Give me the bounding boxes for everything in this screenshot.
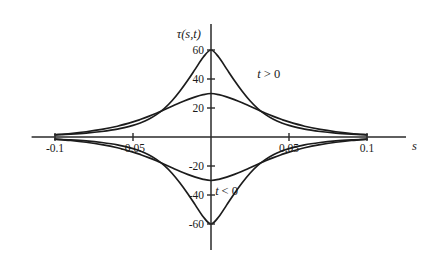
y-tick-label-20: 20 xyxy=(193,102,205,114)
x-tick-label-0.1: 0.1 xyxy=(360,142,375,154)
figure-container: 604020-20-40-60-0.1-0.050.050.1 t> 0t< 0… xyxy=(0,0,423,272)
y-tick-label-40: 40 xyxy=(193,73,205,85)
x-tick-label-0.05: 0.05 xyxy=(279,142,299,154)
x-tick-label--0.05: -0.05 xyxy=(121,142,145,154)
t-positive-label: t> 0 xyxy=(257,67,280,81)
tau-plot: 604020-20-40-60-0.1-0.050.050.1 t> 0t< 0… xyxy=(0,0,423,272)
y-tick-label-60: 60 xyxy=(193,44,205,56)
y-tick-label--40: -40 xyxy=(189,189,205,201)
x-tick-label--0.1: -0.1 xyxy=(46,142,64,154)
y-tick-label--60: -60 xyxy=(189,218,205,230)
t-negative-label: t< 0 xyxy=(215,184,238,198)
y-tick-label--20: -20 xyxy=(189,160,205,172)
y-axis-label: τ(s,t) xyxy=(177,27,201,41)
x-axis-label: s xyxy=(412,139,417,153)
